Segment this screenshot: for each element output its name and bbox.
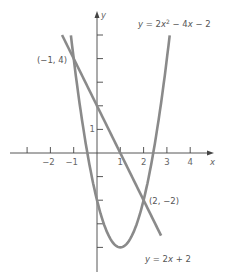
x-arrow-icon [207, 151, 214, 156]
x-tick-label: 4 [187, 157, 192, 167]
x-axis: −2−11234 x [10, 147, 216, 167]
point-label-neg1-4: (−1, 4) [37, 55, 67, 65]
x-tick-label: −2 [42, 157, 55, 167]
point-label-2-neg2: (2, −2) [149, 196, 179, 206]
x-tick-label: −1 [65, 157, 78, 167]
x-tick-label: 3 [164, 157, 169, 167]
line-curve [62, 35, 161, 236]
x-axis-label: x [209, 157, 216, 167]
y-axis: 1 y [90, 10, 107, 272]
y-tick-label: 1 [90, 124, 95, 134]
y-axis-label: y [100, 10, 107, 20]
parabola-curve [71, 35, 170, 247]
graph: −2−11234 x 1 y y = 2x2 − 4x − 2 y = 2x +… [0, 0, 227, 277]
x-tick-label: 2 [141, 157, 146, 167]
y-arrow-icon [95, 11, 100, 18]
line-label: y = 2x + 2 [144, 254, 191, 264]
parabola-label: y = 2x2 − 4x − 2 [137, 18, 211, 29]
